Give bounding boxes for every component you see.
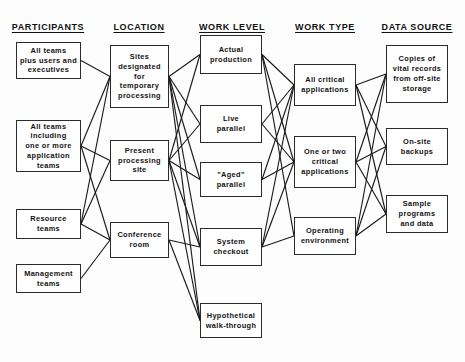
edge-w4-to-t2 (262, 162, 294, 247)
edge-p4-to-l3 (81, 240, 110, 279)
edge-p3-to-l1 (81, 77, 110, 225)
edge-p2-to-l3 (81, 146, 110, 240)
node-label-l2: Present processing site (118, 146, 161, 175)
edge-t3-to-d3 (356, 214, 386, 236)
edge-w4-to-t3 (262, 236, 294, 247)
edge-w1-to-t1 (262, 55, 294, 86)
node-d1[interactable]: Copies of vital records from off-site st… (386, 45, 448, 103)
node-label-d3: Sample programs and data (399, 199, 436, 228)
node-label-d2: On-site backups (401, 137, 433, 157)
column-header-location: LOCATION (113, 22, 164, 32)
edge-l2-to-w2 (169, 124, 200, 161)
node-t3[interactable]: Operating environment (294, 217, 356, 255)
edge-l1-to-w1 (169, 55, 200, 77)
edge-p1-to-l1 (81, 61, 110, 77)
edge-t3-to-d1 (356, 74, 386, 236)
node-label-w1: Actual production (210, 45, 252, 65)
node-t1[interactable]: All critical applications (294, 64, 356, 106)
node-label-t1: All critical applications (301, 75, 348, 95)
edge-w2-to-t2 (262, 124, 294, 162)
node-w1[interactable]: Actual production (200, 35, 262, 74)
edge-p2-to-l1 (81, 77, 110, 147)
column-header-participants: PARTICIPANTS (12, 22, 84, 32)
node-d2[interactable]: On-site backups (386, 128, 448, 165)
node-label-w3: "Aged" parallel (217, 170, 246, 190)
node-label-p1: All teams plus users and executives (20, 46, 77, 75)
edge-l1-to-w4 (169, 77, 200, 248)
edge-t2-to-d2 (356, 147, 386, 163)
node-l2[interactable]: Present processing site (110, 140, 169, 181)
edge-w3-to-t1 (262, 85, 294, 180)
node-label-l1: Sites designated for temporary processin… (113, 52, 166, 101)
edge-l1-to-w5 (169, 77, 200, 321)
edge-w4-to-t1 (262, 85, 294, 247)
node-w3[interactable]: "Aged" parallel (200, 162, 262, 197)
column-header-data_source: DATA SOURCE (382, 22, 453, 32)
edge-w1-to-t2 (262, 55, 294, 163)
edge-t1-to-d2 (356, 85, 386, 147)
edge-l3-to-w4 (169, 240, 200, 247)
node-label-w2: Live parallel (217, 114, 246, 134)
node-label-p3: Resource teams (30, 214, 66, 234)
node-label-l3: Conference room (117, 230, 161, 250)
node-l1[interactable]: Sites designated for temporary processin… (110, 45, 169, 108)
edge-l2-to-w1 (169, 55, 200, 161)
node-p4[interactable]: Management teams (16, 264, 81, 293)
edge-l2-to-w3 (169, 161, 200, 180)
node-p1[interactable]: All teams plus users and executives (16, 42, 81, 79)
edge-p3-to-l3 (81, 224, 110, 240)
node-w5[interactable]: Hypothetical walk-through (200, 303, 262, 338)
node-label-p4: Management teams (24, 269, 73, 289)
node-t2[interactable]: One or two critical applications (294, 136, 356, 188)
node-label-t3: Operating environment (301, 226, 349, 246)
node-label-d1: Copies of vital records from off-site st… (393, 54, 442, 93)
node-l3[interactable]: Conference room (110, 222, 169, 258)
node-p2[interactable]: All teams including one or more applicat… (16, 120, 81, 172)
edge-t2-to-d1 (356, 74, 386, 162)
node-label-w4: System checkout (213, 237, 248, 257)
node-d3[interactable]: Sample programs and data (386, 195, 448, 233)
edge-t3-to-d2 (356, 147, 386, 237)
node-w4[interactable]: System checkout (200, 228, 262, 266)
edge-t1-to-d1 (356, 74, 386, 85)
column-header-work_type: WORK TYPE (295, 22, 355, 32)
node-label-t2: One or two critical applications (301, 147, 348, 176)
node-w2[interactable]: Live parallel (200, 105, 262, 143)
column-header-work_level: WORK LEVEL (199, 22, 265, 32)
edge-l2-to-w5 (169, 161, 200, 321)
node-label-p2: All teams including one or more applicat… (25, 122, 72, 171)
edge-t1-to-d3 (356, 85, 386, 214)
edge-w1-to-t3 (262, 55, 294, 237)
edge-l1-to-w2 (169, 77, 200, 125)
edge-l3-to-w5 (169, 240, 200, 321)
node-label-w5: Hypothetical walk-through (206, 311, 257, 331)
edge-w3-to-t2 (262, 162, 294, 180)
edge-p3-to-l2 (81, 161, 110, 225)
edge-p2-to-l2 (81, 146, 110, 161)
edge-l1-to-w3 (169, 77, 200, 180)
node-p3[interactable]: Resource teams (16, 209, 81, 239)
edge-t2-to-d3 (356, 162, 386, 214)
edge-l2-to-w4 (169, 161, 200, 248)
edge-w2-to-t1 (262, 85, 294, 124)
flow-diagram: PARTICIPANTSLOCATIONWORK LEVELWORK TYPED… (0, 0, 465, 362)
